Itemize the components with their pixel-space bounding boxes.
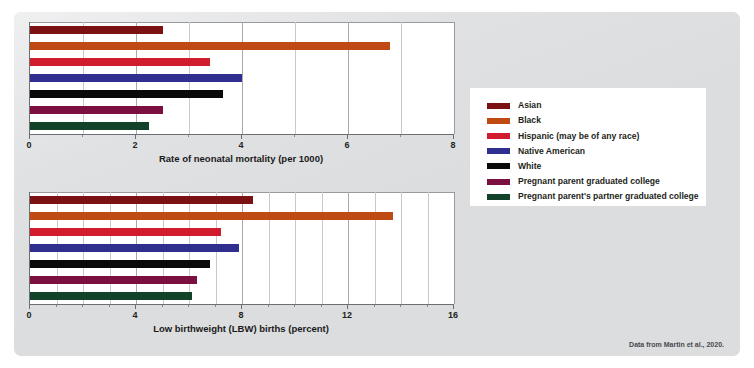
legend-item: Pregnant parent graduated college bbox=[487, 175, 660, 188]
gridline-minor bbox=[295, 22, 296, 134]
axis-tick-minor bbox=[374, 305, 375, 307]
axis-tick-minor bbox=[109, 305, 110, 307]
legend-swatch bbox=[487, 163, 510, 169]
axis-tick-label: 4 bbox=[132, 310, 137, 320]
gridline-minor bbox=[401, 192, 402, 304]
axis-tick-minor bbox=[56, 305, 57, 307]
axis-tick-minor bbox=[321, 305, 322, 307]
axis-tick-minor bbox=[400, 305, 401, 307]
axis-tick-major bbox=[347, 305, 348, 309]
legend-swatch bbox=[487, 103, 510, 109]
axis-tick-major bbox=[135, 305, 136, 309]
legend-label: Black bbox=[518, 116, 541, 125]
bar bbox=[30, 292, 192, 300]
legend-swatch bbox=[487, 133, 510, 139]
axis-tick-label: 4 bbox=[238, 140, 243, 150]
bar bbox=[30, 196, 253, 204]
axis-tick-minor bbox=[82, 135, 83, 137]
gridline-minor bbox=[322, 192, 323, 304]
bar bbox=[30, 42, 390, 50]
plot-frame-right bbox=[454, 192, 455, 304]
axis-tick-label: 12 bbox=[342, 310, 352, 320]
legend-label: White bbox=[518, 162, 541, 171]
legend-label: Pregnant parent's partner graduated coll… bbox=[518, 192, 699, 201]
legend-swatch bbox=[487, 194, 510, 200]
gridline-minor bbox=[375, 192, 376, 304]
legend-swatch bbox=[487, 179, 510, 185]
bar bbox=[30, 122, 149, 130]
axis-tick-minor bbox=[427, 305, 428, 307]
axis-tick-label: 2 bbox=[132, 140, 137, 150]
chart-neonatal-mortality: 02468Rate of neonatal mortality (per 100… bbox=[29, 22, 489, 162]
bar bbox=[30, 58, 210, 66]
axis-tick-label: 0 bbox=[26, 140, 31, 150]
gridline-minor bbox=[401, 22, 402, 134]
gridline-major bbox=[348, 22, 349, 134]
legend: AsianBlackHispanic (may be of any race)N… bbox=[470, 88, 706, 206]
x-axis-title: Rate of neonatal mortality (per 1000) bbox=[159, 153, 323, 164]
gridline-major bbox=[242, 192, 243, 304]
bar bbox=[30, 26, 163, 34]
legend-label: Asian bbox=[518, 101, 541, 110]
chart-low-birthweight: 0481216Low birthweight (LBW) births (per… bbox=[29, 192, 489, 332]
gridline-major bbox=[348, 192, 349, 304]
axis-tick-minor bbox=[162, 305, 163, 307]
axis-tick-label: 6 bbox=[344, 140, 349, 150]
legend-label: Native American bbox=[518, 147, 585, 156]
legend-item: Native American bbox=[487, 145, 585, 158]
plot-area bbox=[29, 22, 454, 135]
legend-label: Pregnant parent graduated college bbox=[518, 177, 660, 186]
axis-tick-minor bbox=[188, 305, 189, 307]
bar bbox=[30, 244, 239, 252]
figure-root: 02468Rate of neonatal mortality (per 100… bbox=[0, 0, 754, 368]
axis-tick-label: 8 bbox=[450, 140, 455, 150]
plot-area bbox=[29, 192, 454, 305]
bar bbox=[30, 228, 221, 236]
gridline-minor bbox=[295, 192, 296, 304]
axis-tick-major bbox=[29, 305, 30, 309]
axis-tick-major bbox=[135, 135, 136, 139]
x-axis-title: Low birthweight (LBW) births (percent) bbox=[153, 323, 329, 334]
axis-tick-major bbox=[347, 135, 348, 139]
bar bbox=[30, 260, 210, 268]
bar bbox=[30, 212, 393, 220]
legend-item: Black bbox=[487, 114, 541, 127]
axis-tick-minor bbox=[294, 305, 295, 307]
gridline-minor bbox=[428, 192, 429, 304]
legend-item: Pregnant parent's partner graduated coll… bbox=[487, 190, 699, 203]
axis-tick-major bbox=[241, 135, 242, 139]
data-source-credit: Data from Martin et al., 2020. bbox=[629, 341, 724, 348]
legend-item: Hispanic (may be of any race) bbox=[487, 129, 639, 142]
axis-tick-label: 8 bbox=[238, 310, 243, 320]
bar bbox=[30, 74, 242, 82]
axis-tick-major bbox=[29, 135, 30, 139]
gridline-minor bbox=[269, 192, 270, 304]
axis-tick-major bbox=[453, 135, 454, 139]
axis-tick-major bbox=[241, 305, 242, 309]
plot-frame-right bbox=[454, 22, 455, 134]
gridline-major bbox=[242, 22, 243, 134]
axis-tick-minor bbox=[400, 135, 401, 137]
bar bbox=[30, 276, 197, 284]
legend-swatch bbox=[487, 148, 510, 154]
axis-tick-minor bbox=[82, 305, 83, 307]
legend-label: Hispanic (may be of any race) bbox=[518, 132, 639, 141]
axis-tick-minor bbox=[188, 135, 189, 137]
legend-swatch bbox=[487, 118, 510, 124]
axis-tick-minor bbox=[268, 305, 269, 307]
axis-tick-minor bbox=[215, 305, 216, 307]
axis-tick-minor bbox=[294, 135, 295, 137]
bar bbox=[30, 90, 223, 98]
axis-tick-label: 0 bbox=[26, 310, 31, 320]
legend-item: Asian bbox=[487, 99, 541, 112]
axis-tick-label: 16 bbox=[448, 310, 458, 320]
bar bbox=[30, 106, 163, 114]
legend-item: White bbox=[487, 160, 541, 173]
axis-tick-major bbox=[453, 305, 454, 309]
